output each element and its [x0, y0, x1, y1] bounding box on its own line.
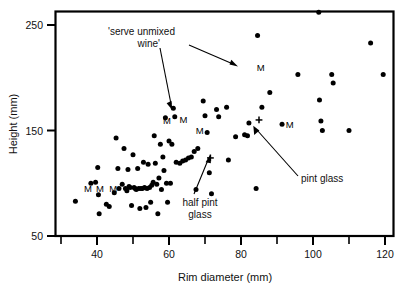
annotation-half-pint-line2: glass [188, 209, 211, 220]
data-point [146, 162, 151, 167]
data-point [347, 128, 352, 133]
data-point [368, 40, 373, 45]
annotation-pint-glass: pint glass [301, 173, 343, 184]
data-point [107, 204, 112, 209]
data-point [168, 181, 173, 186]
data-point [97, 211, 102, 216]
data-point [120, 182, 125, 187]
data-point [207, 170, 212, 175]
data-point [160, 154, 165, 159]
data-point [165, 200, 170, 205]
point-letter-label: M [179, 114, 187, 125]
data-point [318, 119, 323, 124]
data-point [233, 134, 238, 139]
data-point [135, 166, 140, 171]
data-point [148, 200, 153, 205]
arrowhead-serve-unmixed-right [230, 60, 239, 67]
data-point [381, 72, 386, 77]
data-point [129, 203, 134, 208]
y-tick-label-50: 50 [31, 230, 43, 242]
point-letter-label: M [163, 115, 171, 126]
x-tick-label-60: 60 [163, 248, 175, 260]
point-letter-label: M [257, 62, 265, 73]
y-tick-labels: 250 150 50 [25, 19, 43, 242]
data-point [216, 114, 221, 119]
annotation-serve-unmixed-line1: 'serve unmixed [108, 26, 175, 37]
data-point [189, 154, 194, 159]
data-point [226, 158, 231, 163]
data-point [115, 166, 120, 171]
data-point [280, 122, 285, 127]
data-point [155, 211, 160, 216]
data-point [73, 199, 78, 204]
data-point [320, 128, 325, 133]
plot-canvas: 250 150 50 Height (mm) 40 60 80 100 120 [0, 0, 406, 293]
data-point [125, 167, 130, 172]
data-point [254, 186, 259, 191]
point-letter-label: M [109, 183, 117, 194]
data-point [245, 133, 250, 138]
data-point [205, 130, 210, 135]
y-tick-label-150: 150 [25, 125, 43, 137]
arrowhead-serve-unmixed-left [167, 101, 173, 110]
data-point [159, 187, 164, 192]
arrowhead-half-pint [206, 155, 211, 164]
data-point [114, 135, 119, 140]
data-point [246, 121, 251, 126]
data-point [116, 186, 121, 191]
data-point [141, 160, 146, 165]
data-point [156, 175, 161, 180]
y-axis-title: Height (mm) [7, 94, 19, 155]
data-point [169, 142, 174, 147]
reference-glass-marker [256, 117, 263, 124]
scatter-plot-figure: 250 150 50 Height (mm) 40 60 80 100 120 [0, 0, 406, 293]
data-point [153, 161, 158, 166]
data-point [172, 114, 177, 119]
data-markers-layer [73, 10, 386, 217]
data-point [154, 182, 159, 187]
x-tick-label-40: 40 [91, 248, 103, 260]
point-letter-label: M [286, 119, 294, 130]
y-tick-label-250: 250 [25, 19, 43, 31]
data-point [224, 105, 229, 110]
point-letter-label: M [96, 183, 104, 194]
x-tick-label-100: 100 [304, 248, 322, 260]
data-point [195, 146, 200, 151]
point-letter-label: M [196, 125, 204, 136]
data-point [329, 72, 334, 77]
data-point [201, 98, 206, 103]
data-point [295, 72, 300, 77]
data-point [214, 107, 219, 112]
annotation-half-pint-line1: half pint [182, 197, 217, 208]
data-point [255, 33, 260, 38]
data-point [122, 146, 127, 151]
data-point [209, 191, 214, 196]
data-point [152, 133, 157, 138]
y-axis-ticks [47, 25, 56, 236]
arrowhead-pint-glass [253, 126, 259, 135]
annotation-labels: 'serve unmixed wine' half pint glass pin… [108, 26, 343, 220]
x-tick-labels: 40 60 80 100 120 [91, 248, 394, 260]
data-point [203, 113, 208, 118]
annotation-serve-unmixed-line2: wine' [137, 38, 161, 49]
x-tick-label-120: 120 [376, 248, 394, 260]
data-point [158, 142, 163, 147]
data-point [331, 81, 336, 86]
data-point [161, 168, 166, 173]
data-point [317, 97, 322, 102]
data-point [267, 90, 272, 95]
x-axis-ticks [61, 236, 385, 245]
data-point [131, 152, 136, 157]
data-point [259, 105, 264, 110]
data-point [95, 165, 100, 170]
data-point [143, 205, 148, 210]
x-axis-title: Rim diameter (mm) [178, 271, 272, 283]
point-letter-labels-layer: MMMMMMMM [84, 62, 294, 193]
data-point [316, 10, 321, 15]
data-point [137, 206, 142, 211]
point-letter-label: M [84, 183, 92, 194]
x-tick-label-80: 80 [235, 248, 247, 260]
